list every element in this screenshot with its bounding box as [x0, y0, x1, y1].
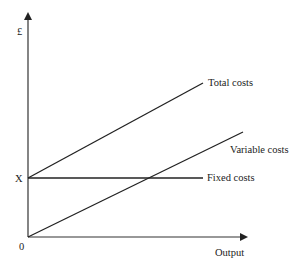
- fixed-costs-label: Fixed costs: [207, 172, 255, 183]
- variable-costs-line: [28, 132, 243, 237]
- origin-label: 0: [19, 241, 24, 252]
- y-axis-label: £: [17, 26, 22, 37]
- x-level-label: X: [15, 173, 23, 184]
- x-axis-label: Output: [215, 247, 244, 258]
- total-costs-label: Total costs: [208, 77, 253, 88]
- variable-costs-label: Variable costs: [230, 144, 289, 155]
- cost-chart: £ X 0 Output Total costs Variable costs …: [0, 0, 300, 270]
